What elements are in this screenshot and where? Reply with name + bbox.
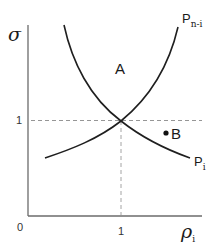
label-p-i-sub: i	[203, 162, 206, 172]
y-tick-1: 1	[16, 115, 22, 126]
label-p-n-i-main: P	[182, 11, 191, 26]
label-p-n-i: Pn-i	[182, 12, 202, 25]
y-axis-label: σ	[8, 25, 21, 44]
diagram-canvas	[0, 0, 216, 249]
label-p-i-main: P	[194, 154, 203, 169]
point-b-marker	[163, 130, 168, 135]
curve-p-n-i	[45, 27, 178, 158]
label-p-i: Pi	[194, 155, 206, 168]
x-tick-1: 1	[118, 226, 124, 237]
x-axis-label-main: ρ	[181, 220, 192, 242]
origin-label: 0	[17, 222, 23, 233]
x-axis-label-sub: i	[192, 234, 195, 244]
region-a-label: A	[115, 61, 125, 76]
label-p-n-i-sub: n-i	[191, 19, 203, 29]
x-axis-label: ρi	[181, 222, 195, 241]
point-b-label: B	[171, 126, 181, 141]
